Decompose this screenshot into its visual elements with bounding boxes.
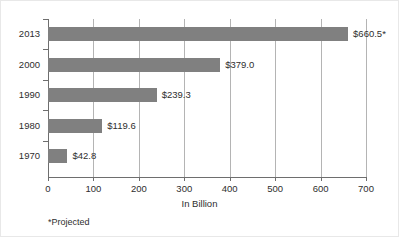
category-label-2013: 2013 [1,27,40,41]
gridline-500 [275,19,276,177]
bar-value-1990: $239.3 [157,87,191,102]
bar-2000 [48,58,220,72]
ytick-mark-4 [43,141,48,142]
xtick-label-300: 300 [164,183,204,195]
xtick-label-600: 600 [301,183,341,195]
xtick-mark-0 [48,177,49,181]
gridline-700 [366,19,367,177]
xtick-mark-300 [184,177,185,181]
plot-area: $660.5* $379.0 $239.3 $119.6 $42.8 [48,19,366,177]
xtick-mark-700 [366,177,367,181]
ytick-mark-2 [43,80,48,81]
bar-1990 [48,88,157,102]
xtick-mark-400 [230,177,231,181]
ytick-mark-3 [43,110,48,111]
bar-value-1970: $42.8 [67,148,96,163]
xtick-label-100: 100 [73,183,113,195]
xtick-label-0: 0 [28,183,68,195]
bar-value-2013: $660.5* [348,26,386,41]
bar-2013 [48,27,348,41]
bar-chart-figure: $660.5* $379.0 $239.3 $119.6 $42.8 2 [0,0,399,237]
ytick-mark-1 [43,49,48,50]
gridline-600 [321,19,322,177]
category-label-1970: 1970 [1,149,40,163]
ytick-mark-top [43,19,48,20]
category-label-2000: 2000 [1,58,40,72]
xtick-label-700: 700 [346,183,386,195]
xtick-mark-100 [93,177,94,181]
category-label-1990: 1990 [1,88,40,102]
bar-1970 [48,149,67,163]
bar-1980 [48,119,102,133]
xtick-mark-200 [139,177,140,181]
gridline-400 [230,19,231,177]
bar-value-1980: $119.6 [102,118,135,133]
xtick-label-500: 500 [255,183,295,195]
x-axis-line [48,177,367,178]
xtick-mark-600 [321,177,322,181]
chart-footnote: *Projected [48,216,90,228]
category-label-1980: 1980 [1,119,40,133]
xtick-label-200: 200 [119,183,159,195]
xtick-label-400: 400 [210,183,250,195]
bar-value-2000: $379.0 [220,57,254,72]
xtick-mark-500 [275,177,276,181]
x-axis-title: In Billion [1,198,398,210]
